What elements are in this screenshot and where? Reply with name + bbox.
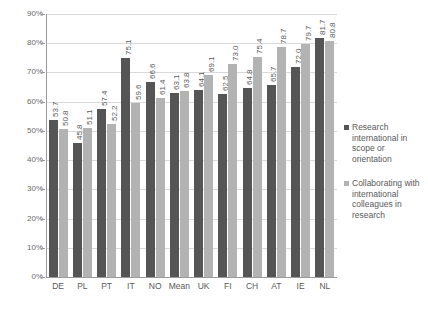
bar: 57.4 — [97, 109, 106, 277]
bar-value-label: 52.2 — [110, 106, 119, 122]
bar: 63.8 — [180, 91, 189, 277]
y-axis-tick-label: 90% — [3, 10, 43, 18]
bar-group: 75.159.6 — [119, 14, 143, 277]
y-axis-tick-mark — [41, 102, 45, 103]
bar: 65.7 — [267, 85, 276, 277]
bar: 51.1 — [83, 128, 92, 277]
bar-groups: 53.750.845.851.157.452.275.159.666.661.4… — [46, 14, 337, 277]
bar-group: 62.573.0 — [216, 14, 240, 277]
y-axis: 0%10%20%30%40%50%60%70%80%90% — [0, 14, 43, 277]
x-axis-tick-label: NO — [143, 281, 167, 291]
bar-value-label: 51.1 — [85, 109, 94, 125]
y-axis-line — [46, 14, 47, 277]
bar-group: 81.780.8 — [313, 14, 337, 277]
bar: 45.8 — [73, 143, 82, 277]
y-axis-tick-mark — [41, 131, 45, 132]
bar: 75.1 — [121, 58, 130, 277]
bar: 80.8 — [325, 41, 334, 277]
bar: 61.4 — [156, 98, 165, 277]
bar-group: 65.778.7 — [264, 14, 288, 277]
bar-value-label: 63.1 — [172, 74, 181, 90]
y-axis-tick-mark — [41, 219, 45, 220]
x-axis-tick-label: CH — [240, 281, 264, 291]
legend-label: Collaborating with international colleag… — [352, 178, 426, 220]
x-axis-tick-label: Mean — [167, 281, 191, 291]
bar-value-label: 66.6 — [148, 64, 157, 80]
bar: 72.0 — [291, 67, 300, 277]
y-axis-tick-mark — [41, 14, 45, 15]
x-axis-tick-label: PT — [95, 281, 119, 291]
bar: 73.0 — [228, 64, 237, 277]
y-axis-tick-label: 50% — [3, 127, 43, 135]
plot-area: 53.750.845.851.157.452.275.159.666.661.4… — [46, 14, 337, 277]
bar-value-label: 63.8 — [182, 72, 191, 88]
x-axis-tick-label: DE — [46, 281, 70, 291]
bar-group: 64.875.4 — [240, 14, 264, 277]
y-axis-tick-mark — [41, 43, 45, 44]
x-axis-tick-label: FI — [216, 281, 240, 291]
bar: 78.7 — [277, 47, 286, 277]
y-axis-tick-mark — [41, 189, 45, 190]
bar: 66.6 — [146, 82, 155, 277]
bar-value-label: 61.4 — [158, 79, 167, 95]
bar-value-label: 81.7 — [318, 20, 327, 36]
bar-value-label: 50.8 — [61, 110, 70, 126]
legend-entry: Research international in scope or orien… — [344, 122, 426, 164]
y-axis-tick-label: 60% — [3, 98, 43, 106]
x-axis-labels: DEPLPTITNOMeanUKFICHATIENL — [46, 281, 337, 291]
x-axis-tick-label: UK — [192, 281, 216, 291]
bar-value-label: 78.7 — [279, 28, 288, 44]
y-axis-tick-label: 40% — [3, 156, 43, 164]
bar-value-label: 73.0 — [231, 45, 240, 61]
bar: 64.8 — [243, 88, 252, 277]
bar-value-label: 59.6 — [134, 84, 143, 100]
bar-value-label: 75.4 — [255, 38, 264, 54]
bar-value-label: 69.1 — [207, 57, 216, 73]
bar-group: 63.163.8 — [167, 14, 191, 277]
bar-value-label: 75.1 — [124, 39, 133, 55]
x-axis-tick-label: NL — [313, 281, 337, 291]
bar: 75.4 — [253, 57, 262, 277]
legend-swatch-icon — [344, 125, 349, 130]
x-axis-tick-label: AT — [264, 281, 288, 291]
bar-group: 64.169.1 — [192, 14, 216, 277]
bar-value-label: 79.7 — [304, 26, 313, 42]
bar-value-label: 80.8 — [328, 22, 337, 38]
legend-entry: Collaborating with international colleag… — [344, 178, 426, 220]
legend-swatch-icon — [344, 181, 349, 186]
bar: 81.7 — [315, 38, 324, 277]
y-axis-tick-mark — [41, 277, 45, 278]
y-axis-tick-label: 80% — [3, 39, 43, 47]
bar: 63.1 — [170, 93, 179, 277]
bar-group: 66.661.4 — [143, 14, 167, 277]
x-axis-tick-label: IE — [289, 281, 313, 291]
bar-value-label: 53.7 — [51, 102, 60, 118]
y-axis-tick-label: 70% — [3, 68, 43, 76]
y-axis-tick-mark — [41, 160, 45, 161]
bar: 62.5 — [218, 94, 227, 277]
bar: 59.6 — [131, 103, 140, 277]
legend-label: Research international in scope or orien… — [352, 122, 426, 164]
bar-group: 53.750.8 — [46, 14, 70, 277]
chart-legend: Research international in scope or orien… — [344, 122, 426, 234]
axis-baseline — [46, 277, 337, 278]
bar-group: 45.851.1 — [70, 14, 94, 277]
bar: 53.7 — [49, 120, 58, 277]
y-axis-tick-label: 10% — [3, 244, 43, 252]
bar-value-label: 57.4 — [100, 91, 109, 107]
bar: 52.2 — [107, 124, 116, 277]
y-axis-tick-label: 0% — [3, 273, 43, 281]
y-axis-tick-mark — [41, 248, 45, 249]
y-axis-tick-mark — [41, 72, 45, 73]
bar: 69.1 — [204, 75, 213, 277]
bar: 79.7 — [301, 44, 310, 277]
bar: 50.8 — [59, 129, 68, 277]
y-axis-tick-label: 20% — [3, 215, 43, 223]
x-axis-tick-label: IT — [119, 281, 143, 291]
bar-group: 57.452.2 — [95, 14, 119, 277]
x-axis-tick-label: PL — [70, 281, 94, 291]
bar-group: 72.079.7 — [289, 14, 313, 277]
bar-chart: 0%10%20%30%40%50%60%70%80%90% 53.750.845… — [0, 0, 428, 314]
bar: 64.1 — [194, 90, 203, 277]
y-axis-tick-label: 30% — [3, 185, 43, 193]
